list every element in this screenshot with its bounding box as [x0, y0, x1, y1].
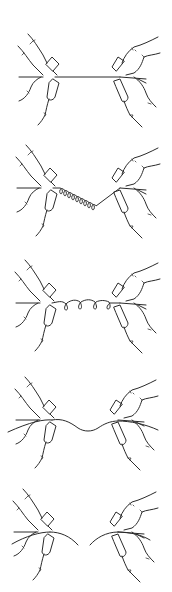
left-hand-icon [15, 260, 56, 351]
right-hand-icon [112, 263, 160, 353]
left-hand-icon [18, 34, 59, 125]
right-hand-icon [112, 148, 160, 238]
string-sag [52, 419, 118, 431]
panel-broken-string [12, 489, 158, 582]
left-hand-icon [16, 145, 57, 236]
string-coil [53, 188, 120, 210]
string-broken-right [90, 532, 118, 545]
string-loose-coil [52, 300, 120, 310]
right-hand-icon [110, 492, 158, 582]
right-hand-icon [112, 37, 160, 127]
panel-tight-coil [16, 145, 160, 238]
right-hand-icon [110, 380, 158, 470]
illustration [0, 0, 172, 592]
left-hand-icon [15, 377, 56, 468]
panel-loose-coil [15, 260, 160, 353]
panel-slack-string [8, 377, 158, 470]
panel-taut-string [18, 34, 160, 127]
